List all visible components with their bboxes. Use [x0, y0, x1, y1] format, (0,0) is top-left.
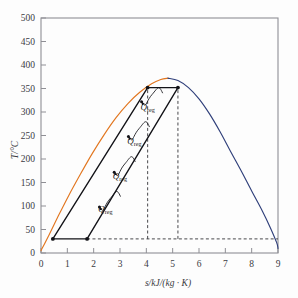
ts-diagram-figure: 050100150200250300350400450500 012345678… [0, 0, 298, 298]
state-point-top-left [146, 86, 150, 90]
state-point-bottom-left [51, 237, 55, 241]
x-tick-label: 1 [65, 259, 70, 269]
state-point-top-right [176, 86, 180, 90]
x-tick-label: 7 [223, 259, 228, 269]
y-tick-label: 100 [21, 201, 36, 211]
y-tick-label: 250 [21, 131, 36, 141]
x-tick-label: 5 [170, 259, 175, 269]
y-axis-title: T/°C [10, 140, 20, 159]
y-tick-label: 50 [26, 225, 36, 235]
y-tick-label: 0 [30, 248, 35, 258]
y-tick-label: 150 [21, 178, 36, 188]
state-point-bottom-right [85, 237, 89, 241]
x-axis-title: s/kJ/(kg · K) [145, 278, 191, 289]
y-tick-label: 300 [21, 107, 36, 117]
x-tick-label: 6 [197, 259, 202, 269]
y-tick-label: 350 [21, 84, 36, 94]
plot-canvas: 050100150200250300350400450500 012345678… [0, 0, 298, 298]
y-tick-label: 450 [21, 37, 36, 47]
x-tick-label: 0 [39, 259, 44, 269]
x-tick-label: 8 [249, 259, 254, 269]
x-tick-label: 4 [144, 259, 149, 269]
y-tick-label: 400 [21, 60, 36, 70]
x-tick-label: 3 [118, 259, 123, 269]
x-tick-label: 2 [91, 259, 96, 269]
y-tick-label: 500 [21, 13, 36, 23]
y-tick-label: 200 [21, 154, 36, 164]
x-tick-label: 9 [276, 259, 281, 269]
